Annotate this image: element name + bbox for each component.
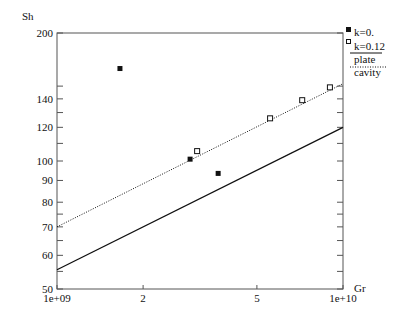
open-square-marker bbox=[195, 149, 200, 154]
y-tick-label: 60 bbox=[42, 249, 54, 261]
y-tick-label: 140 bbox=[37, 93, 54, 105]
x-tick-label: 5 bbox=[254, 292, 260, 304]
x-tick-label: 2 bbox=[140, 292, 146, 304]
fit-lines bbox=[57, 84, 343, 270]
y-tick-label: 200 bbox=[37, 27, 54, 39]
open-square-marker bbox=[268, 116, 273, 121]
x-tick-label: 1e+09 bbox=[43, 292, 71, 304]
cavity-line bbox=[57, 84, 343, 227]
open-square-marker bbox=[327, 85, 332, 90]
chart: 5060708090100120140200 1e+09251e+10 Sh G… bbox=[0, 0, 410, 319]
filled-square-marker bbox=[117, 66, 122, 71]
data-points bbox=[117, 66, 332, 176]
y-tick-label: 80 bbox=[42, 196, 54, 208]
filled-square-marker bbox=[216, 171, 221, 176]
x-axis-label: Gr bbox=[354, 282, 366, 294]
y-axis-label: Sh bbox=[22, 10, 34, 22]
legend-open-square-icon bbox=[347, 40, 351, 44]
filled-square-marker bbox=[188, 157, 193, 162]
legend-k012-label: k=0.12 bbox=[354, 40, 385, 52]
legend-cavity-label: cavity bbox=[354, 66, 381, 78]
legend: k=0. k=0.12 plate cavity bbox=[346, 26, 386, 78]
x-axis: 1e+09251e+10 bbox=[43, 285, 357, 304]
y-tick-label: 90 bbox=[42, 174, 54, 186]
y-tick-label: 70 bbox=[42, 221, 54, 233]
y-tick-label: 120 bbox=[37, 121, 54, 133]
legend-k0-label: k=0. bbox=[354, 26, 374, 38]
legend-plate-label: plate bbox=[354, 53, 375, 65]
plot-frame bbox=[57, 33, 343, 289]
open-square-marker bbox=[300, 98, 305, 103]
y-tick-label: 100 bbox=[37, 155, 54, 167]
legend-filled-square-icon bbox=[346, 27, 351, 32]
